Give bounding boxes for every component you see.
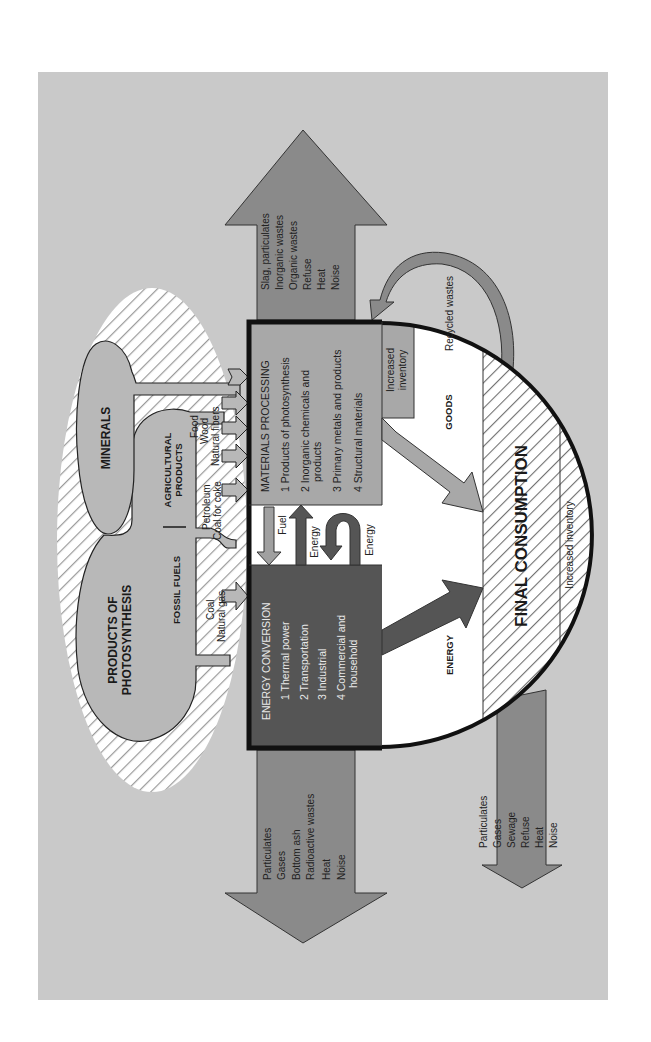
materials-waste-3: Organic wastes <box>288 221 299 290</box>
final-consumption-title: FINAL CONSUMPTION <box>512 445 531 627</box>
materials-inventory-label-1: Increased <box>385 348 396 392</box>
energy-item-3: 3 Industrial <box>316 649 328 700</box>
energy-up-label: Energy <box>309 526 320 558</box>
energy-item-4: 4 Commercial and <box>335 615 347 700</box>
final-consumption-inventory: Increased inventory <box>564 501 575 588</box>
minerals-label: MINERALS <box>99 407 113 470</box>
materials-item-4: 4 Structural materials <box>352 393 364 492</box>
energy-waste-4: Radioactive wastes <box>305 794 316 880</box>
materials-processing-title: MATERIALS PROCESSING <box>259 360 271 492</box>
fossil-item-coke: Coal for coke <box>212 481 223 540</box>
consumption-waste-2: Gases <box>492 819 503 848</box>
energy-waste-1: Particulates <box>262 828 273 880</box>
materials-item-1: 1 Products of photosynthesis <box>279 357 291 492</box>
energy-item-2: 2 Transportation <box>298 624 310 700</box>
energy-item-4b: household <box>347 639 359 688</box>
energy-waste-6: Noise <box>336 854 347 880</box>
consumption-waste-5: Heat <box>534 827 545 848</box>
agricultural-label-2: PRODUCTS <box>173 443 184 496</box>
energy-flow-label: ENERGY <box>444 634 455 675</box>
materials-item-2b: products <box>311 442 323 482</box>
consumption-waste-4: Refuse <box>520 816 531 848</box>
photosynthesis-label-1: PRODUCTS OF <box>106 596 120 683</box>
energy-loop-label: Energy <box>364 524 375 556</box>
consumption-waste-6: Noise <box>548 822 559 848</box>
consumption-waste-3: Sewage <box>506 811 517 848</box>
materials-waste-4: Refuse <box>302 258 313 290</box>
materials-waste-6: Noise <box>330 264 341 290</box>
materials-waste-5: Heat <box>316 269 327 290</box>
materials-inventory-label-2: inventory <box>397 350 408 391</box>
energy-waste-2: Gases <box>276 851 287 880</box>
energy-waste-5: Heat <box>321 859 332 880</box>
agricultural-label-1: AGRICULTURAL <box>162 432 173 507</box>
energy-item-1: 1 Thermal power <box>279 621 291 700</box>
agri-item-fibers: Natural fibers <box>210 407 221 466</box>
photosynthesis-label-2: PHOTOSYNTHESIS <box>120 585 134 695</box>
materials-waste-1: Slag, particulates <box>260 213 271 290</box>
resource-flow-diagram: PRODUCTS OF PHOTOSYNTHESIS MINERALS AGRI… <box>0 0 651 1042</box>
recycled-wastes-label: Recycled wastes <box>444 276 455 351</box>
fossil-item-coal: Coal <box>205 599 216 620</box>
fossil-item-petroleum: Petroleum <box>201 484 212 530</box>
fuel-label: Fuel <box>277 515 288 534</box>
consumption-waste-1: Particulates <box>478 796 489 848</box>
energy-waste-3: Bottom ash <box>291 829 302 880</box>
energy-conversion-title: ENERGY CONVERSION <box>260 602 272 720</box>
fossil-item-natural-gas: Natural gas <box>216 591 227 642</box>
agri-item-wood: Wood <box>199 418 210 444</box>
materials-item-3: 3 Primary metals and products <box>331 350 343 492</box>
fossil-fuels-label: FOSSIL FUELS <box>171 556 182 624</box>
materials-item-2: 2 Inorganic chemicals and <box>299 370 311 492</box>
materials-waste-2: Inorganic wastes <box>274 215 285 290</box>
goods-label: GOODS <box>443 394 454 429</box>
